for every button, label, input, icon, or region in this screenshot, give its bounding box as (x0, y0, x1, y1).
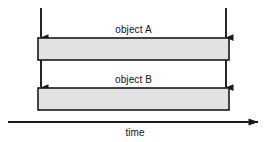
object-a-bar (38, 38, 229, 60)
diagram-canvas (0, 0, 272, 142)
time-axis-label: time (8, 127, 262, 138)
object-b-label: object B (38, 74, 229, 85)
object-b-bar (38, 88, 229, 110)
object-a-label: object A (38, 24, 229, 35)
timeline-diagram: object A object B time (0, 0, 272, 142)
